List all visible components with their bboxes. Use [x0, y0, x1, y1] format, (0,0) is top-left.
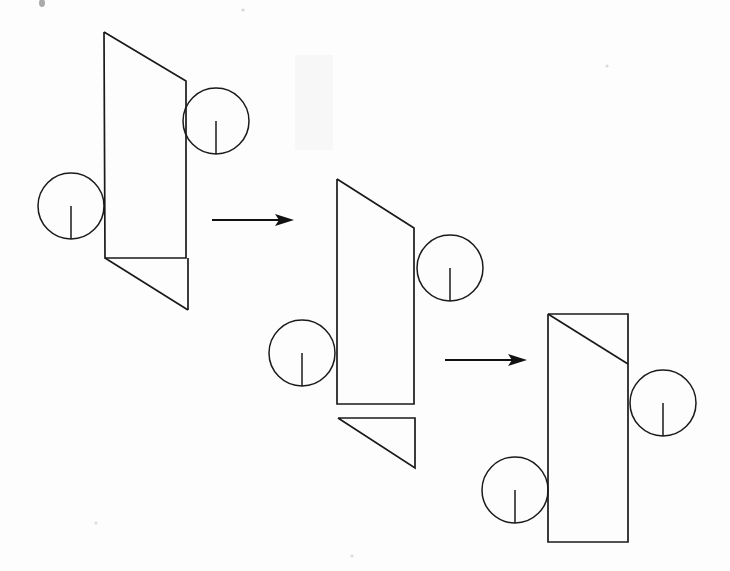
- figure-canvas: Shape transformation sequence Hand-drawn…: [0, 0, 730, 571]
- scan-speck-low-mid: [350, 554, 353, 557]
- scan-speck-right: [605, 64, 608, 67]
- scan-speck-upper-mid: [241, 8, 244, 11]
- scan-speck-low-left: [94, 521, 97, 524]
- diagram-svg: [0, 0, 730, 571]
- scan-grain-layer: [0, 0, 730, 571]
